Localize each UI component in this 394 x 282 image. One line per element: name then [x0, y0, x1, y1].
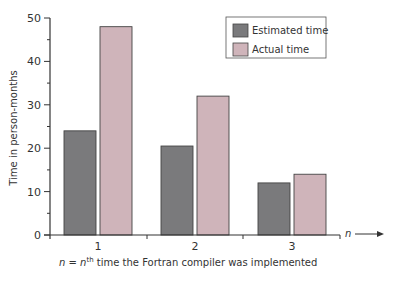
x-axis: 123	[44, 235, 340, 253]
y-tick-label: 50	[27, 12, 41, 25]
x-tick-label: 2	[192, 240, 199, 253]
bar-estimated-3	[258, 183, 290, 235]
x-tick-label: 3	[289, 240, 296, 253]
x-axis-title: n = nth time the Fortran compiler was im…	[59, 256, 317, 268]
y-tick-label: 30	[27, 99, 41, 112]
x-axis-arrow: n	[345, 228, 384, 239]
legend: Estimated time Actual time	[226, 17, 328, 58]
bar-actual-3	[294, 174, 326, 235]
legend-swatch-actual	[233, 43, 248, 56]
legend-label-estimated: Estimated time	[252, 25, 328, 36]
legend-label-actual: Actual time	[252, 44, 309, 55]
y-tick-label: 10	[27, 186, 41, 199]
bar-estimated-2	[161, 146, 193, 235]
x-tick-label: 1	[95, 240, 102, 253]
bar-actual-2	[197, 96, 229, 235]
y-tick-label: 0	[34, 229, 41, 242]
bar-actual-1	[100, 27, 132, 235]
arrow-head-icon	[377, 231, 384, 237]
bar-estimated-1	[64, 131, 96, 235]
legend-swatch-estimated	[233, 24, 248, 37]
bar-chart: 01020304050 123 Time in person-months n …	[0, 0, 394, 282]
y-axis-title: Time in person-months	[8, 70, 19, 187]
y-tick-label: 20	[27, 142, 41, 155]
y-tick-label: 40	[27, 55, 41, 68]
x-arrow-label: n	[345, 228, 351, 239]
y-axis: 01020304050	[27, 12, 50, 242]
